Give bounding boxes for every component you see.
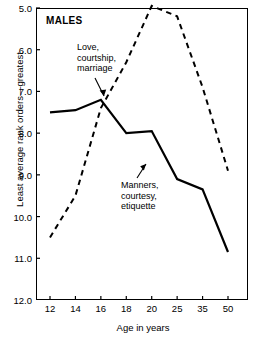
plot-lines [0,0,258,342]
chart-container: Least average rank orders—greatest 5.06.… [0,0,258,342]
x-axis-tick-18: 18 [113,303,139,314]
x-axis-tick-50: 50 [215,303,241,314]
x-axis-title: Age in years [36,322,250,333]
manners-arrow-head [140,164,146,171]
x-axis-tick-16: 16 [88,303,114,314]
x-axis-tick-12: 12 [37,303,63,314]
annotation-leader-lines [95,78,146,178]
love-arrow-head [100,90,107,96]
x-axis-tick-20: 20 [139,303,165,314]
annotation-love-courtship-marriage: Love, courtship, marriage [77,42,116,74]
x-axis-tick-35: 35 [190,303,216,314]
annotation-manners-courtesy-etiquette: Manners, courtesy, etiquette [121,180,159,212]
x-axis-tick-25: 25 [164,303,190,314]
x-axis-tick-14: 14 [62,303,88,314]
